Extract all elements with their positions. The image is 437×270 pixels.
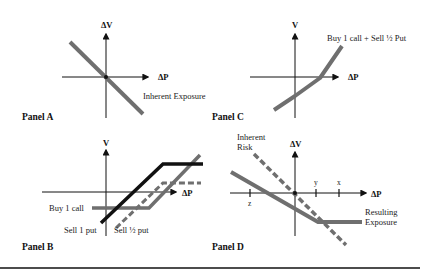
panel-c-combined-payoff-line	[274, 46, 342, 110]
panel-a-y-axis-label: ΔV	[101, 20, 113, 30]
panel-c: V ΔP Buy 1 call + Sell ½ Put Panel C	[212, 20, 407, 122]
panel-b-sell-half-put-label: Sell ½ put	[114, 225, 149, 235]
panel-a-x-axis-label: ΔP	[158, 72, 169, 82]
panel-d-tick-label-z: z	[248, 199, 252, 208]
panel-d-inherent-label-line1: Inherent	[237, 132, 266, 142]
panel-d-inherent-label-line2: Risk	[237, 142, 253, 152]
panel-d-resulting-label-line2: Exposure	[365, 217, 397, 227]
panel-b: V ΔP Buy 1 call Sell 1 put Sell ½ put Pa…	[22, 138, 203, 252]
hedging-diagram: ΔV ΔP Inherent Exposure Panel A V ΔP Buy…	[0, 0, 437, 270]
panel-d-label: Panel D	[212, 242, 244, 252]
panel-b-buy-call-label: Buy 1 call	[49, 203, 85, 213]
panel-d-resulting-exposure-line	[231, 172, 362, 222]
panel-d-tick-label-x: x	[337, 178, 341, 187]
panel-d-y-axis-label: ΔV	[290, 139, 302, 149]
panel-b-label: Panel B	[22, 242, 54, 252]
panel-c-x-axis-label: ΔP	[348, 72, 359, 82]
panel-d-resulting-label-line1: Resulting	[365, 207, 398, 217]
panel-a-label: Panel A	[22, 112, 54, 122]
panel-c-y-axis-label: V	[292, 20, 299, 30]
panel-b-y-axis-label: V	[103, 138, 110, 148]
panel-a-annotation: Inherent Exposure	[143, 91, 206, 101]
panel-a: ΔV ΔP Inherent Exposure Panel A	[22, 20, 206, 122]
panel-b-sell-put-label: Sell 1 put	[64, 225, 97, 235]
panel-c-annotation: Buy 1 call + Sell ½ Put	[327, 33, 407, 43]
panel-a-origin-dot	[104, 75, 108, 79]
panel-d-x-axis-label: ΔP	[371, 189, 382, 199]
panel-b-x-axis-label: ΔP	[182, 188, 193, 198]
panel-d-tick-label-y: y	[314, 178, 318, 187]
panel-d: z y x ΔV ΔP Inherent Risk Resulting Expo…	[212, 132, 398, 252]
panel-d-origin-dot	[293, 191, 297, 195]
panel-c-label: Panel C	[212, 112, 244, 122]
panel-d-inherent-risk-line	[254, 154, 346, 245]
